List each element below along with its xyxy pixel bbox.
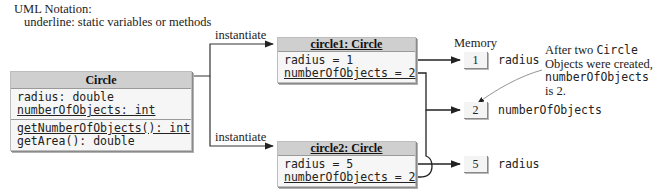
callout-note: After two Circle Objects were created, n… xyxy=(545,44,663,98)
instantiate-label-1: instantiate xyxy=(215,28,266,43)
object-fields: radius = 1 numberOfObjects = 2 xyxy=(278,52,415,82)
class-name: Circle xyxy=(11,72,191,89)
field-number-of-objects: numberOfObjects: int xyxy=(17,104,185,117)
callout-code: numberOfObjects xyxy=(545,71,663,85)
class-circle: Circle radius: double numberOfObjects: i… xyxy=(10,71,192,151)
memory-cell-radius-5: 5 xyxy=(464,156,488,173)
object-circle1: circle1: Circle radius = 1 numberOfObjec… xyxy=(277,37,416,83)
object-title: circle2: Circle xyxy=(278,142,415,156)
object-field-number-of-objects: numberOfObjects = 2 xyxy=(284,67,409,80)
object-fields: radius = 5 numberOfObjects = 2 xyxy=(278,156,415,186)
callout-text: Objects were created, xyxy=(545,58,663,72)
instantiate-arrow-1 xyxy=(190,44,273,76)
callout-text: is 2. xyxy=(545,85,663,99)
memory-cell-number-of-objects: 2 xyxy=(464,102,488,119)
method-get-area: getArea(): double xyxy=(17,135,185,148)
memory-cell-radius-1: 1 xyxy=(464,52,488,69)
callout-code: Circle xyxy=(596,43,638,57)
instantiate-label-2: instantiate xyxy=(215,130,266,145)
class-fields: radius: double numberOfObjects: int xyxy=(11,89,191,119)
object-field-number-of-objects: numberOfObjects = 2 xyxy=(284,171,409,184)
memory-title: Memory xyxy=(454,36,497,51)
object-title: circle1: Circle xyxy=(278,38,415,52)
callout-text: After two xyxy=(545,43,596,57)
memory-label-radius-5: radius xyxy=(498,157,540,171)
memory-label-number-of-objects: numberOfObjects xyxy=(498,103,602,117)
object-circle2: circle2: Circle radius = 5 numberOfObjec… xyxy=(277,141,416,187)
class-methods: getNumberOfObjects(): int getArea(): dou… xyxy=(11,119,191,150)
memory-label-radius-1: radius xyxy=(498,53,540,67)
